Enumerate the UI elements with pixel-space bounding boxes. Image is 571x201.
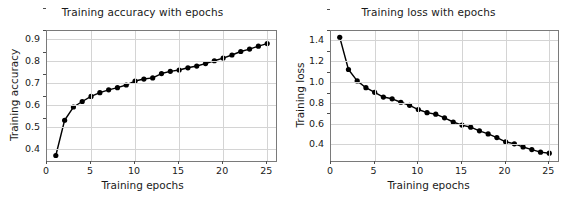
- gridline-vertical: [375, 31, 376, 161]
- y-tick-label: 0.4: [0, 142, 40, 153]
- data-point-marker: [390, 96, 395, 101]
- y-tick-label: 0.9: [0, 32, 40, 43]
- x-tick-label: 25: [260, 165, 272, 176]
- y-tick-mark: [43, 30, 46, 31]
- gridline-horizontal: [47, 83, 276, 84]
- data-point-marker: [168, 69, 173, 74]
- data-point-marker: [363, 85, 368, 90]
- gridline-horizontal: [47, 39, 276, 40]
- y-tick-mark: [327, 72, 330, 73]
- x-tick-mark: [461, 161, 462, 164]
- data-point-marker: [477, 128, 482, 133]
- accuracy-series-line: [47, 31, 278, 163]
- gridline-vertical: [549, 31, 550, 161]
- x-tick-label: 25: [542, 165, 554, 176]
- chart-title-loss: Training loss with epochs: [286, 6, 571, 18]
- x-tick-mark: [330, 161, 331, 164]
- x-tick-label: 20: [216, 165, 228, 176]
- x-axis-label-accuracy: Training epochs: [0, 179, 285, 191]
- gridline-vertical: [267, 31, 268, 161]
- data-point-marker: [442, 115, 447, 120]
- y-tick-label: 0.6: [286, 117, 324, 128]
- gridline-horizontal: [331, 124, 558, 125]
- data-point-marker: [115, 85, 120, 90]
- data-point-marker: [62, 118, 67, 123]
- data-point-marker: [141, 76, 146, 81]
- y-tick-label: 1.4: [286, 34, 324, 45]
- y-tick-mark: [43, 8, 46, 9]
- gridline-vertical: [462, 31, 463, 161]
- x-tick-mark: [90, 161, 91, 164]
- x-tick-label: 10: [128, 165, 140, 176]
- data-point-marker: [381, 94, 386, 99]
- data-point-marker: [159, 71, 164, 76]
- data-point-marker: [238, 49, 243, 54]
- data-point-marker: [185, 65, 190, 70]
- plot-area-accuracy: [46, 30, 277, 162]
- x-tick-label: 0: [43, 165, 49, 176]
- y-tick-mark: [327, 93, 330, 94]
- x-tick-label: 0: [327, 165, 333, 176]
- y-tick-mark: [327, 113, 330, 114]
- gridline-vertical: [135, 31, 136, 161]
- x-tick-mark: [548, 161, 549, 164]
- chart-panel-accuracy: Training accuracy with epochs Training a…: [0, 0, 285, 201]
- gridline-vertical: [418, 31, 419, 161]
- x-tick-mark: [46, 161, 47, 164]
- x-tick-label: 5: [87, 165, 93, 176]
- x-tick-mark: [266, 161, 267, 164]
- y-tick-label: 0.7: [0, 76, 40, 87]
- x-tick-label: 20: [499, 165, 511, 176]
- chart-panel-loss: Training loss with epochs Training loss …: [286, 0, 571, 201]
- gridline-horizontal: [331, 40, 558, 41]
- data-point-marker: [424, 110, 429, 115]
- series-polyline: [340, 37, 550, 153]
- gridline-horizontal: [331, 61, 558, 62]
- data-point-marker: [97, 90, 102, 95]
- x-tick-label: 15: [455, 165, 467, 176]
- gridline-horizontal: [331, 103, 558, 104]
- y-tick-mark: [327, 51, 330, 52]
- plot-area-loss: [330, 30, 559, 162]
- data-point-marker: [229, 52, 234, 57]
- gridline-horizontal: [47, 127, 276, 128]
- data-point-marker: [194, 63, 199, 68]
- x-tick-label: 10: [411, 165, 423, 176]
- data-point-marker: [247, 46, 252, 51]
- x-tick-mark: [222, 161, 223, 164]
- y-tick-mark: [43, 96, 46, 97]
- data-point-marker: [256, 44, 261, 49]
- y-tick-mark: [43, 74, 46, 75]
- y-tick-label: 0.5: [0, 120, 40, 131]
- gridline-vertical: [506, 31, 507, 161]
- gridline-vertical: [91, 31, 92, 161]
- data-point-marker: [106, 87, 111, 92]
- y-tick-mark: [327, 9, 330, 10]
- data-point-marker: [486, 131, 491, 136]
- x-tick-mark: [417, 161, 418, 164]
- gridline-vertical: [223, 31, 224, 161]
- x-tick-mark: [374, 161, 375, 164]
- x-axis-label-loss: Training epochs: [286, 179, 571, 191]
- gridline-horizontal: [47, 149, 276, 150]
- y-tick-label: 0.4: [286, 138, 324, 149]
- y-tick-label: 0.8: [0, 54, 40, 65]
- x-tick-label: 5: [371, 165, 377, 176]
- data-point-marker: [494, 135, 499, 140]
- y-tick-label: 1.2: [286, 55, 324, 66]
- y-tick-label: 1.0: [286, 75, 324, 86]
- x-tick-label: 15: [172, 165, 184, 176]
- data-point-marker: [520, 144, 525, 149]
- y-tick-label: 0.8: [286, 96, 324, 107]
- gridline-horizontal: [331, 82, 558, 83]
- x-tick-mark: [505, 161, 506, 164]
- x-tick-mark: [178, 161, 179, 164]
- data-point-marker: [80, 99, 85, 104]
- figure-container: Training accuracy with epochs Training a…: [0, 0, 571, 201]
- data-point-marker: [53, 153, 58, 158]
- gridline-horizontal: [47, 105, 276, 106]
- gridline-vertical: [179, 31, 180, 161]
- gridline-horizontal: [331, 144, 558, 145]
- data-point-marker: [150, 75, 155, 80]
- y-tick-mark: [43, 118, 46, 119]
